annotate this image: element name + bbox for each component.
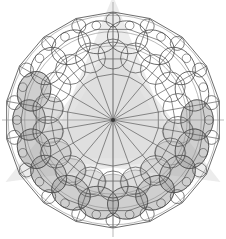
figure-root [0,0,226,239]
geometry-canvas [0,0,226,239]
center-hub-dot [111,118,115,122]
